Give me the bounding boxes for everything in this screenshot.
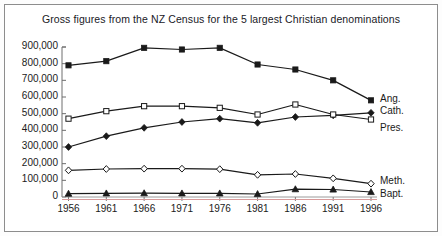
y-axis-tick-label: 500,000 [0,107,58,118]
y-axis-tick-label: 900,000 [0,40,58,51]
legend-label-bapt: Bapt. [380,188,403,199]
y-axis-tick-label: 300,000 [0,140,58,151]
legend-label-cath: Cath. [380,105,404,116]
y-axis-tick-label: 0 [0,190,58,201]
y-axis-tick-label: 600,000 [0,90,58,101]
x-axis-tick-label: 1996 [347,203,395,214]
y-axis-tick-label: 200,000 [0,157,58,168]
legend-label-ang: Ang. [380,93,401,104]
y-axis-tick-label: 400,000 [0,123,58,134]
y-axis-tick-label: 800,000 [0,57,58,68]
series-lines [65,45,374,196]
chart-figure: Gross figures from the NZ Census for the… [0,0,442,236]
plot-area [0,0,442,236]
legend-label-pres: Pres. [380,122,403,133]
y-axis-tick-label: 100,000 [0,173,58,184]
legend-label-meth: Meth. [380,175,405,186]
y-axis-tick-label: 700,000 [0,73,58,84]
